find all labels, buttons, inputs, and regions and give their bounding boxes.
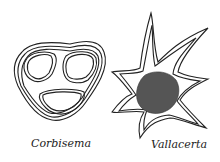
vallacerta-drawing — [112, 13, 208, 138]
nucleus — [137, 72, 179, 114]
label-corbisema: Corbisema — [31, 137, 91, 150]
label-vallacerta: Vallacerta — [151, 138, 207, 151]
corbisema-drawing — [15, 42, 106, 121]
